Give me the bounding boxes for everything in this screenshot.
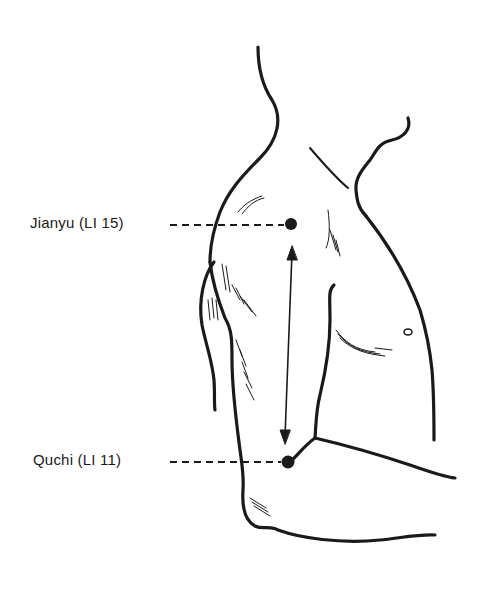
chest-outline bbox=[366, 216, 434, 440]
pectoral-hatch bbox=[336, 330, 392, 356]
chin-outline bbox=[356, 118, 409, 216]
arrow-head-up-icon bbox=[287, 246, 297, 260]
elbow-crease bbox=[290, 438, 315, 462]
distance-arrow bbox=[285, 252, 292, 437]
shoulder-hatch bbox=[238, 196, 264, 214]
jianyu-label: Jianyu (LI 15) bbox=[30, 214, 124, 231]
quchi-point-marker bbox=[282, 456, 295, 469]
arm-illustration bbox=[0, 0, 497, 591]
acupuncture-diagram: Jianyu (LI 15) Quchi (LI 11) bbox=[0, 0, 497, 591]
elbow-hatch bbox=[250, 498, 270, 516]
deltoid-hatch bbox=[326, 210, 340, 256]
neck-back-outline bbox=[210, 47, 278, 262]
upper-arm-front-outline bbox=[315, 285, 334, 438]
nipple-mark bbox=[404, 329, 412, 335]
clavicle-line bbox=[310, 148, 348, 188]
quchi-label: Quchi (LI 11) bbox=[33, 451, 121, 468]
forearm-top-outline bbox=[315, 438, 455, 478]
arm-hatch-lower bbox=[236, 340, 254, 400]
jianyu-point-marker bbox=[285, 218, 297, 230]
arrow-head-down-icon bbox=[280, 430, 290, 444]
